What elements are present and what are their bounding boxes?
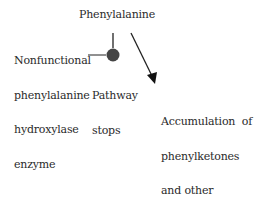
outcome-label-line: phenylketones [161, 151, 254, 163]
pathway-stops-line: Pathway [92, 90, 138, 102]
outcome-label: Accumulation of phenylketones and other … [161, 93, 254, 201]
enzyme-label-line: hydroxylase [14, 124, 91, 136]
enzyme-label-line: enzyme [14, 159, 91, 171]
arrow-head-icon [147, 72, 157, 84]
phenylalanine-label: Phenylalanine [79, 9, 155, 21]
pathway-stops-line: stops [92, 125, 138, 137]
enzyme-label-line: phenylalanine [14, 90, 91, 102]
outcome-label-line: and other [161, 185, 254, 197]
pathway-block-dot [107, 49, 120, 62]
outcome-label-line: Accumulation of [161, 116, 254, 128]
enzyme-label: Nonfunctional phenylalanine hydroxylase … [14, 32, 91, 182]
pathway-stops-label: Pathway stops [92, 67, 138, 148]
enzyme-label-line: Nonfunctional [14, 55, 91, 67]
